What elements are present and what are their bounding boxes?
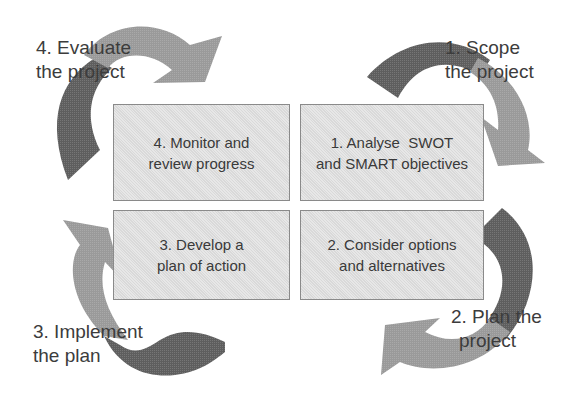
box-consider-options: 2. Consider options and alternatives — [300, 210, 484, 300]
box-analyse-swot: 1. Analyse SWOT and SMART objectives — [300, 104, 484, 201]
box-text-line: plan of action — [157, 255, 246, 276]
label-line: 1. Scope — [445, 36, 534, 60]
box-develop-plan: 3. Develop a plan of action — [113, 210, 290, 300]
label-line: 3. Implement — [33, 320, 143, 344]
box-text-line: and SMART objectives — [316, 153, 468, 174]
box-monitor-review-text: 4. Monitor and review progress — [149, 132, 255, 174]
label-plan-project: 2. Plan the project — [451, 305, 542, 353]
box-text-line: review progress — [149, 153, 255, 174]
box-text-line: and alternatives — [327, 255, 456, 276]
label-line: the project — [445, 60, 534, 84]
box-consider-options-text: 2. Consider options and alternatives — [327, 234, 456, 276]
box-text-line: 2. Consider options — [327, 234, 456, 255]
box-monitor-review: 4. Monitor and review progress — [113, 104, 290, 201]
label-line: the plan — [33, 344, 143, 368]
box-develop-plan-text: 3. Develop a plan of action — [157, 234, 246, 276]
label-line: the project — [36, 60, 131, 84]
label-implement-plan: 3. Implement the plan — [33, 320, 143, 368]
label-line: 4. Evaluate — [36, 36, 131, 60]
box-text-line: 3. Develop a — [157, 234, 246, 255]
box-analyse-swot-text: 1. Analyse SWOT and SMART objectives — [316, 132, 468, 174]
box-text-line: 4. Monitor and — [149, 132, 255, 153]
label-line: 2. Plan the — [451, 305, 542, 329]
label-evaluate-project: 4. Evaluate the project — [36, 36, 131, 84]
box-text-line: 1. Analyse SWOT — [316, 132, 468, 153]
label-line: project — [451, 329, 542, 353]
label-scope-project: 1. Scope the project — [445, 36, 534, 84]
